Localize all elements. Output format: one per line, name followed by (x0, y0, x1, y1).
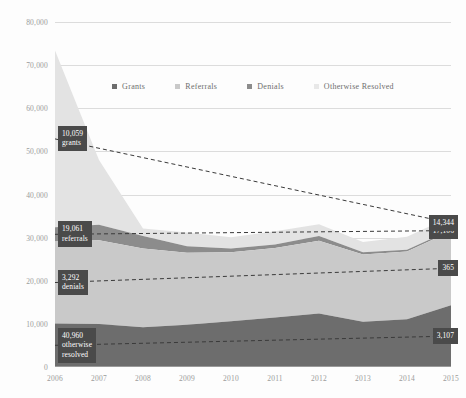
y-axis-tick-label: 0 (44, 363, 48, 372)
y-axis-tick-label: 80,000 (26, 18, 48, 27)
callout-line: referrals (62, 234, 88, 244)
callout-left-otherwise-resolved: 40,960otherwiseresolved (58, 328, 96, 363)
callout-line: otherwise (62, 340, 92, 350)
callout-left-grants: 10,059grants (58, 126, 87, 152)
x-axis-tick-label: 2013 (355, 374, 371, 383)
callout-left-denials: 3,292denials (58, 270, 88, 296)
area-otherwise-resolved (55, 51, 451, 253)
legend-item-denials[interactable]: Denials (247, 82, 284, 91)
legend-swatch-icon (314, 84, 319, 89)
callout-right-grants: 14,344 (429, 215, 458, 231)
legend-item-grants[interactable]: Grants (112, 82, 145, 91)
x-axis-tick-label: 2014 (399, 374, 415, 383)
x-axis-tick-label: 2015 (443, 374, 459, 383)
x-axis-tick-label: 2011 (267, 374, 283, 383)
y-axis-tick-label: 10,000 (26, 319, 48, 328)
legend-label: Denials (257, 82, 284, 91)
y-axis-tick-label: 50,000 (26, 147, 48, 156)
x-axis-line (55, 366, 451, 367)
legend-item-otherwise-resolved[interactable]: Otherwise Resolved (314, 82, 394, 91)
legend-swatch-icon (247, 84, 252, 89)
legend-item-referrals[interactable]: Referrals (175, 82, 217, 91)
y-axis-tick-label: 60,000 (26, 104, 48, 113)
area-series-layer (55, 22, 451, 367)
legend-label: Otherwise Resolved (324, 82, 394, 91)
callout-line: 3,292 (62, 273, 84, 283)
stacked-area-chart: 010,00020,00030,00040,00050,00060,00070,… (0, 0, 466, 398)
callout-right-denials: 365 (438, 260, 458, 276)
x-axis-tick-label: 2009 (179, 374, 195, 383)
callout-line: 14,344 (433, 218, 454, 228)
callout-line: 40,960 (62, 331, 92, 341)
y-axis-tick-label: 30,000 (26, 233, 48, 242)
x-axis-tick-label: 2006 (47, 374, 63, 383)
callout-line: 3,107 (437, 331, 454, 341)
y-axis-tick-label: 40,000 (26, 190, 48, 199)
callout-right-otherwise-resolved: 3,107 (433, 328, 458, 344)
callout-line: 365 (442, 263, 454, 273)
plot-area: 010,00020,00030,00040,00050,00060,00070,… (55, 22, 451, 367)
legend-label: Grants (122, 82, 145, 91)
legend-swatch-icon (112, 84, 117, 89)
callout-left-referrals: 19,061referrals (58, 221, 92, 247)
x-axis-tick-label: 2010 (223, 374, 239, 383)
legend-swatch-icon (175, 84, 180, 89)
y-axis-tick-label: 70,000 (26, 61, 48, 70)
x-axis-tick-label: 2012 (311, 374, 327, 383)
x-axis-tick-label: 2008 (135, 374, 151, 383)
callout-line: resolved (62, 350, 92, 360)
x-axis-tick-label: 2007 (91, 374, 107, 383)
callout-line: 19,061 (62, 224, 88, 234)
chart-legend: GrantsReferralsDenialsOtherwise Resolved (55, 82, 451, 91)
legend-label: Referrals (185, 82, 217, 91)
callout-line: grants (62, 138, 83, 148)
callout-line: denials (62, 282, 84, 292)
y-axis-tick-label: 20,000 (26, 276, 48, 285)
callout-line: 10,059 (62, 129, 83, 139)
